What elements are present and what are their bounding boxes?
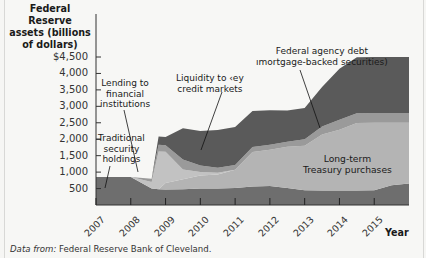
source-text: Federal Reserve Bank of Cleveland. <box>56 244 211 254</box>
source-note: Data from: Federal Reserve Bank of Cleve… <box>10 244 211 254</box>
annotation-line: Lending to <box>100 78 150 89</box>
annotation-line: Federal agency debt <box>256 46 388 57</box>
annotation-line: institutions <box>100 99 150 110</box>
annotation-lending: Lending to financial institutions <box>100 78 150 110</box>
annotation-liquidity: Liquidity to ‹ey credit markets <box>176 73 244 94</box>
annotation-line: Liquidity to ‹ey <box>176 73 244 84</box>
x-axis-title: Year <box>385 227 409 238</box>
annotation-traditional: Traditional security holdings <box>98 133 145 165</box>
annotation-mbs: Federal agency debt ımortgage-backed sec… <box>256 46 388 67</box>
annotation-line: financial <box>100 89 150 100</box>
source-prefix: Data from: <box>10 244 56 254</box>
annotation-line: Long-term <box>303 154 392 165</box>
annotation-long-term-treasury: Long-term Treasury purchases <box>303 154 392 175</box>
stacked-area-chart <box>0 0 426 258</box>
annotation-line: security <box>98 144 145 155</box>
annotation-line: Traditional <box>98 133 145 144</box>
annotation-line: holdings <box>98 154 145 165</box>
annotation-line: credit markets <box>176 84 244 95</box>
annotation-line: ımortgage-backed securities) <box>256 57 388 68</box>
annotation-line: Treasury purchases <box>303 165 392 176</box>
